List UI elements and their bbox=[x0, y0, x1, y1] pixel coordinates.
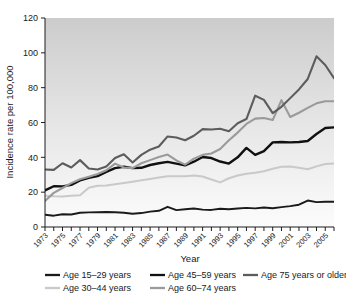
x-tick-label: 1985 bbox=[137, 231, 155, 249]
y-tick-label: 60 bbox=[28, 118, 38, 128]
y-tick-label: 20 bbox=[28, 187, 38, 197]
x-tick-label: 1987 bbox=[154, 231, 172, 249]
legend-label: Age 75 years or older bbox=[261, 270, 346, 280]
x-tick-label: 1983 bbox=[119, 231, 137, 249]
y-tick-label: 120 bbox=[23, 13, 38, 23]
plot-background bbox=[45, 18, 334, 227]
legend-label: Age 15–29 years bbox=[63, 270, 132, 280]
y-tick-group: 020406080100120 bbox=[23, 13, 45, 232]
legend-label: Age 30–44 years bbox=[63, 283, 132, 293]
x-tick-label: 1995 bbox=[224, 231, 242, 249]
x-tick-label: 1993 bbox=[207, 231, 225, 249]
y-tick-label: 40 bbox=[28, 153, 38, 163]
x-tick-label: 1981 bbox=[102, 231, 120, 249]
x-tick-label: 1979 bbox=[84, 231, 102, 249]
x-tick-group: 1973197519771979198119831985198719891991… bbox=[32, 227, 334, 249]
x-tick-label: 2003 bbox=[294, 231, 312, 249]
x-tick-label: 1999 bbox=[259, 231, 277, 249]
chart-legend: Age 15–29 yearsAge 45–59 yearsAge 75 yea… bbox=[45, 270, 346, 293]
x-tick-label: 1989 bbox=[172, 231, 190, 249]
x-tick-label: 1991 bbox=[189, 231, 207, 249]
x-tick-label: 2005 bbox=[312, 231, 330, 249]
x-axis-title: Year bbox=[180, 253, 199, 264]
x-tick-label: 1977 bbox=[67, 231, 85, 249]
legend-label: Age 60–74 years bbox=[168, 283, 237, 293]
y-tick-label: 100 bbox=[23, 48, 38, 58]
y-tick-label: 80 bbox=[28, 83, 38, 93]
x-tick-label: 1973 bbox=[32, 231, 50, 249]
incidence-rate-line-chart: 020406080100120 197319751977197919811983… bbox=[0, 0, 346, 304]
y-axis-title: Incidence rate per 100,000 bbox=[4, 65, 15, 178]
x-tick-label: 1975 bbox=[49, 231, 67, 249]
legend-label: Age 45–59 years bbox=[168, 270, 237, 280]
chart-canvas: 020406080100120 197319751977197919811983… bbox=[0, 0, 346, 304]
x-tick-label: 2001 bbox=[277, 231, 295, 249]
x-tick-label: 1997 bbox=[242, 231, 260, 249]
y-tick-label: 0 bbox=[33, 222, 38, 232]
